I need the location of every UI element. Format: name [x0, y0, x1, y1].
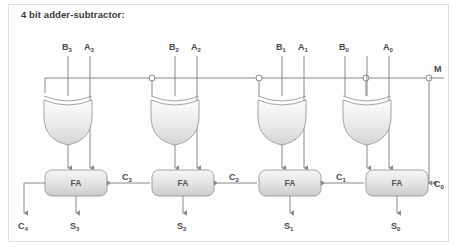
carry-label-c2: C2	[229, 172, 240, 183]
sum-label-s0: S0	[391, 221, 401, 232]
full-adder-1: FA	[259, 170, 321, 196]
xor-gate-1	[258, 96, 306, 145]
screenshot-root: 4 bit adder-subtractor:	[0, 0, 459, 248]
carry-out-label-c4: C4	[18, 221, 29, 232]
xor-gate-2	[151, 96, 199, 145]
mode-junction-1	[256, 75, 262, 81]
input-label-b1: B1	[276, 42, 287, 53]
input-label-a3: A3	[84, 42, 95, 53]
full-adder-2: FA	[152, 170, 214, 196]
fa-label-0: FA	[392, 178, 403, 188]
mode-control-bus	[45, 78, 429, 93]
full-adder-3: FA	[45, 170, 107, 196]
stage-2: FA	[149, 56, 257, 213]
stage-0: FA	[343, 56, 428, 213]
mode-label: M	[434, 64, 442, 74]
input-label-a2: A2	[191, 42, 202, 53]
input-label-a0: A0	[383, 42, 394, 53]
fa-label-1: FA	[285, 178, 296, 188]
mode-junction-0	[363, 75, 369, 81]
stage-1: FA	[256, 56, 364, 213]
sum-label-s3: S3	[70, 221, 80, 232]
stage-3: FA	[24, 56, 150, 213]
carry-label-c0: C0	[434, 179, 445, 190]
xor-gate-0	[343, 96, 391, 145]
xor-gate-3	[44, 96, 92, 145]
sum-label-s2: S2	[177, 221, 187, 232]
carry-label-c1: C1	[336, 172, 347, 183]
input-label-b0: B0	[339, 42, 350, 53]
input-label-a1: A1	[298, 42, 309, 53]
sum-label-s1: S1	[284, 221, 294, 232]
input-label-b2: B2	[169, 42, 180, 53]
carry-label-c3: C3	[122, 172, 133, 183]
full-adder-0: FA	[366, 170, 428, 196]
mode-junction-2	[149, 75, 155, 81]
fa-label-3: FA	[71, 178, 82, 188]
fa-label-2: FA	[178, 178, 189, 188]
mode-terminal	[398, 75, 444, 183]
circuit-diagram: FA FA	[0, 0, 459, 248]
input-label-b3: B3	[62, 42, 73, 53]
